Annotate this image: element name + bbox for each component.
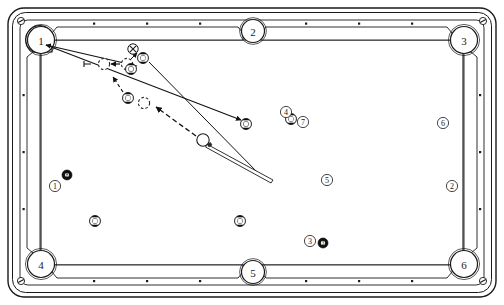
position-marker-6[interactable]: 6 — [437, 117, 448, 128]
position-marker-7-label: 7 — [301, 118, 305, 127]
position-marker-2[interactable]: 2 — [446, 180, 457, 191]
screw-tl — [17, 17, 24, 24]
ball-9-label: 9 — [130, 67, 133, 72]
diamond-bottom-4 — [305, 280, 307, 282]
pocket-6[interactable]: 6 — [448, 248, 479, 279]
table-canvas: 1 2 3 4 5 — [0, 0, 504, 305]
pocket-4-label: 4 — [38, 259, 44, 271]
cushion-left — [27, 52, 40, 253]
cushion-top-left — [52, 27, 243, 40]
diamond-bottom-6 — [411, 280, 413, 282]
diamond-bottom-5 — [358, 280, 360, 282]
diamond-top-3 — [199, 23, 201, 25]
position-marker-3-label: 3 — [308, 237, 312, 246]
ball-3-label: 3 — [322, 241, 325, 246]
screw-tr — [479, 17, 486, 24]
cushion-bottom-left — [52, 265, 243, 278]
screw-bl — [17, 277, 24, 284]
ball-10: 10 — [122, 93, 134, 104]
pocket-4[interactable]: 4 — [25, 248, 56, 279]
position-marker-6-label: 6 — [441, 119, 445, 128]
position-marker-1[interactable]: 1 — [49, 180, 60, 191]
cushion-right — [464, 52, 477, 253]
position-marker-7[interactable]: 7 — [297, 116, 308, 127]
ball-target-label: 2 — [245, 122, 248, 127]
position-marker-3[interactable]: 3 — [304, 235, 315, 246]
ball-12-label: 12 — [288, 117, 294, 122]
ball-13-label: 13 — [92, 219, 98, 224]
diamond-top-6 — [411, 23, 413, 25]
pocket-6-label: 6 — [461, 259, 467, 271]
ball-11: 11 — [234, 216, 246, 227]
cushion-top-right — [261, 27, 452, 40]
diamond-bottom-2 — [146, 280, 148, 282]
diamond-left-3 — [23, 208, 25, 210]
pocket-2-label: 2 — [250, 26, 256, 38]
ball-10-label: 10 — [125, 96, 131, 101]
ghost-ball-a — [98, 58, 109, 69]
ball-3: 3 — [318, 238, 328, 248]
ball-13: 13 — [89, 216, 101, 227]
diamond-top-2 — [146, 23, 148, 25]
cushion-bottom-right — [261, 265, 452, 278]
position-marker-1-label: 1 — [53, 182, 57, 191]
diamond-bottom-1 — [93, 280, 95, 282]
ball-14: 14 — [137, 53, 149, 64]
ball-target: 2 — [240, 119, 252, 130]
position-marker-2-label: 2 — [450, 182, 454, 191]
x-mark: X — [128, 44, 138, 54]
diamond-top-4 — [305, 23, 307, 25]
pocket-1-label: 1 — [38, 35, 44, 47]
ball-14-label: 14 — [140, 56, 146, 61]
ball-11-label: 11 — [238, 219, 243, 224]
position-marker-5[interactable]: 5 — [321, 174, 332, 185]
table-frame — [8, 8, 496, 297]
position-marker-4[interactable]: 4 — [280, 106, 291, 117]
pocket-5[interactable]: 5 — [240, 259, 267, 286]
position-marker-4-label: 4 — [284, 108, 288, 117]
pocket-3-label: 3 — [461, 35, 467, 47]
ghost-ball-c — [138, 97, 149, 108]
pocket-3[interactable]: 3 — [448, 24, 479, 55]
ball-8-label: 8 — [66, 173, 69, 178]
diamond-left-1 — [23, 94, 25, 96]
ball-8: 8 — [62, 170, 72, 180]
pocket-5-label: 5 — [250, 267, 256, 279]
diamond-top-5 — [358, 23, 360, 25]
pocket-1[interactable]: 1 — [25, 24, 56, 55]
screw-br — [479, 277, 486, 284]
diamond-top-1 — [93, 23, 95, 25]
pool-table-diagram: 1 2 3 4 5 — [0, 0, 504, 305]
diamond-right-3 — [479, 208, 481, 210]
diamond-bottom-3 — [199, 280, 201, 282]
diamond-right-1 — [479, 94, 481, 96]
diamond-left-2 — [23, 151, 25, 153]
position-marker-5-label: 5 — [325, 176, 329, 185]
diamond-right-2 — [479, 151, 481, 153]
pocket-2[interactable]: 2 — [240, 18, 267, 45]
ball-9: 9 — [125, 64, 137, 75]
playing-surface — [41, 40, 463, 265]
